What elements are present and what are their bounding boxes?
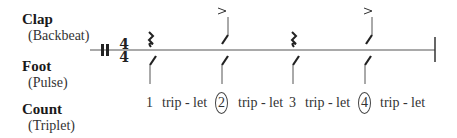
count-triplet-3: trip - let <box>305 96 350 110</box>
foot-note-icon <box>150 56 156 84</box>
foot-note-icon <box>222 56 228 84</box>
quarter-rest-icon <box>149 32 153 47</box>
accent-icon <box>364 8 372 14</box>
foot-note-icon <box>365 56 371 84</box>
accent-icon <box>218 8 226 14</box>
time-signature-bottom: 4 <box>119 49 129 65</box>
foot-note-icon <box>293 56 299 84</box>
count-triplet-4: trip - let <box>380 96 425 110</box>
count-triplet-2: trip - let <box>238 96 283 110</box>
count-beat-3: 3 <box>289 96 296 110</box>
count-beat-2: 2 <box>215 96 228 114</box>
count-beat-4: 4 <box>358 96 371 114</box>
count-triplet-1: trip - let <box>162 96 207 110</box>
accented-clap-note-icon <box>364 8 372 44</box>
accented-clap-note-icon <box>218 8 228 44</box>
rhythm-staff: 4 4 <box>0 0 457 138</box>
quarter-rest-icon <box>292 32 296 47</box>
count-beat-1: 1 <box>146 96 153 110</box>
